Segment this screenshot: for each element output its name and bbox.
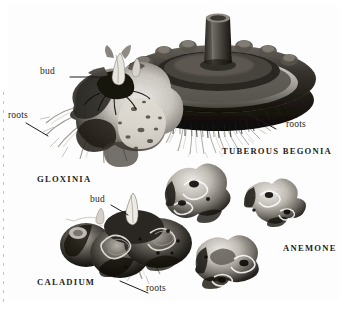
figure-plate: bud roots roots bud roots GLOXINIA TUBER… <box>0 0 346 312</box>
caption-anemone: ANEMONE <box>283 243 337 253</box>
page-margin-rule <box>3 92 4 307</box>
callout-roots-begonia: roots <box>286 119 306 129</box>
begonia-stem-stub <box>204 14 232 67</box>
caption-gloxinia: GLOXINIA <box>37 174 91 184</box>
callout-bud-caladium: bud <box>90 194 105 204</box>
callout-roots-caladium: roots <box>146 283 166 293</box>
caption-tuberous-begonia: TUBEROUS BEGONIA <box>222 146 332 156</box>
caption-caladium: CALADIUM <box>37 277 95 287</box>
callout-roots-gloxinia: roots <box>8 110 28 120</box>
callout-bud-gloxinia: bud <box>40 66 55 76</box>
